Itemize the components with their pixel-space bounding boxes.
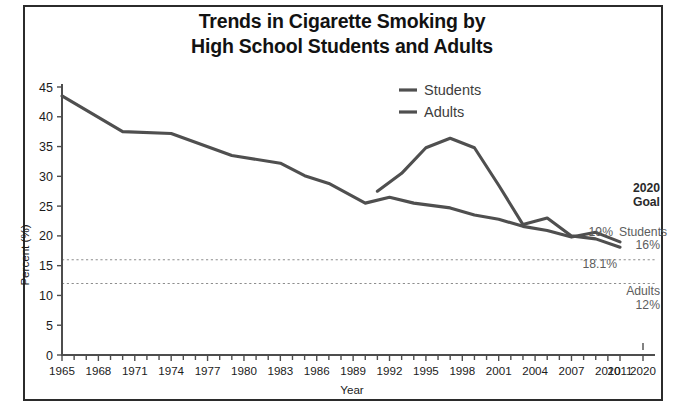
y-tick-label: 15: [39, 259, 53, 273]
y-tick-label: 30: [39, 170, 53, 184]
x-tick-label: 1974: [158, 364, 184, 377]
students-goal-value: 16%: [636, 238, 661, 252]
y-tick-label: 45: [39, 81, 53, 95]
students-endpoint-label: 19%: [589, 225, 614, 239]
y-tick-label: 0: [46, 349, 53, 363]
data-series-group: [62, 96, 620, 247]
y-tick-label: 35: [39, 140, 53, 154]
x-tick-label: 1992: [377, 364, 403, 377]
x-tick-label: 1968: [85, 364, 111, 377]
annotations-group: 2020 Goal 19% Students 16% 18.1% Adults …: [582, 181, 667, 312]
x-axis-ticks: [62, 343, 643, 361]
x-tick-label: 1995: [413, 364, 439, 377]
adults-goal-label: Adults: [626, 284, 660, 298]
students-goal-label: Students: [619, 225, 667, 239]
series-line-students: [377, 138, 620, 247]
y-axis-title: Percent (%): [18, 224, 31, 285]
y-tick-label: 10: [39, 289, 53, 303]
legend-label-adults: Adults: [424, 104, 464, 120]
x-tick-label: 1977: [195, 364, 221, 377]
y-axis-tick-labels: 051015202530354045: [39, 81, 53, 363]
legend-label-students: Students: [424, 82, 481, 98]
x-axis-tick-labels: 1965196819711974197719801983198619891992…: [49, 364, 656, 377]
x-tick-label: 1983: [267, 364, 293, 377]
x-axis-title: Year: [340, 383, 364, 396]
x-tick-label: 2004: [522, 364, 548, 377]
x-tick-label: 2011: [608, 364, 633, 377]
axes-group: [62, 84, 655, 355]
x-tick-label: 2001: [486, 364, 512, 377]
reference-lines-group: [62, 260, 655, 284]
y-tick-label: 5: [46, 319, 53, 333]
x-tick-label: 1980: [231, 364, 257, 377]
line-chart-plot: 1965196819711974197719801983198619891992…: [0, 0, 684, 412]
x-tick-label: 1998: [449, 364, 475, 377]
adults-goal-value: 12%: [636, 298, 661, 312]
y-tick-label: 40: [39, 110, 53, 124]
x-tick-label: 1971: [122, 364, 148, 377]
x-tick-label: 1989: [340, 364, 366, 377]
x-tick-label: 2007: [559, 364, 585, 377]
legend: Students Adults: [399, 82, 481, 120]
x-tick-label: 1965: [49, 364, 75, 377]
adults-endpoint-label: 18.1%: [582, 257, 617, 271]
y-tick-label: 25: [39, 200, 53, 214]
goal-heading-goal: Goal: [633, 195, 660, 209]
x-tick-label: 2020: [630, 364, 656, 377]
x-tick-label: 1986: [304, 364, 330, 377]
chart-page: Trends in Cigarette Smoking by High Scho…: [0, 0, 684, 412]
y-tick-label: 20: [39, 229, 53, 243]
goal-heading-year: 2020: [633, 181, 660, 195]
